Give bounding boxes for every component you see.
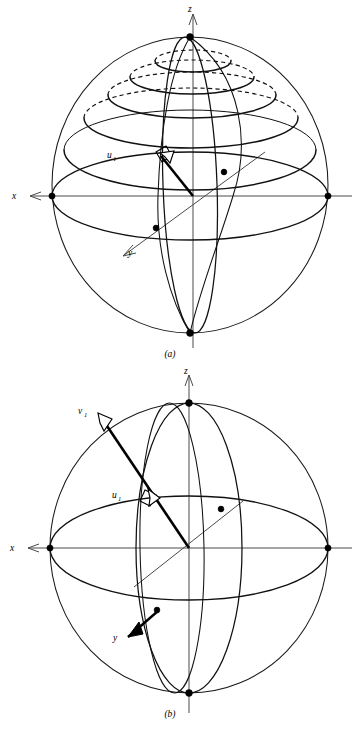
y-axis-label-b: y	[112, 633, 118, 643]
node-z-pos-a	[187, 34, 194, 41]
figure-b: x y z v 1 u 1 (b)	[0, 365, 358, 730]
latitude-circle-3-a	[108, 72, 276, 118]
node-dots-a	[49, 34, 331, 337]
figure-b-canvas: x y z v 1 u 1 (b)	[0, 365, 358, 730]
figure-a-canvas: x y z u 1 (a)	[0, 0, 358, 365]
x-axis-label-a: x	[11, 191, 17, 201]
vector-u1-label-a: u	[107, 150, 112, 160]
vector-v1-label-subscript-b: 1	[84, 411, 87, 418]
axis-group-b	[28, 375, 352, 713]
node-z-neg-a	[187, 330, 194, 337]
vector-v1-label-b: v	[78, 406, 83, 416]
latitude-5-back-arc-a	[64, 110, 316, 150]
vector-u1-label-b: u	[112, 490, 117, 500]
vector-u1-label-subscript-a: 1	[113, 155, 116, 162]
axis-group-a	[30, 14, 352, 348]
latitude-2-front-arc-a	[130, 77, 254, 94]
x-axis-label-b: x	[9, 543, 15, 553]
meridian-1-a	[158, 36, 222, 334]
node-y-neg-b	[154, 607, 160, 613]
node-x-pos-a	[325, 193, 331, 199]
y-axis-vector-arrowhead-b	[128, 622, 143, 637]
node-y-pos-a	[221, 169, 227, 175]
z-axis-label-a: z	[187, 4, 192, 14]
node-y-pos-b	[218, 506, 224, 512]
figure-a-caption: (a)	[164, 349, 175, 360]
z-axis-label-b: z	[183, 366, 188, 376]
vector-u1-b	[140, 489, 160, 506]
node-x-neg-a	[49, 193, 55, 199]
node-z-pos-b	[186, 400, 193, 407]
node-z-neg-b	[186, 690, 193, 697]
vector-v1-shaft-b	[103, 420, 189, 548]
vector-v1-b	[98, 413, 189, 548]
node-y-neg-a	[153, 225, 159, 231]
y-axis-vector-b	[128, 611, 158, 637]
latitude-4-front-arc-a	[84, 118, 298, 148]
latitude-3-back-arc-a	[108, 72, 276, 95]
figure-page: x y z u 1 (a)	[0, 0, 358, 730]
node-x-neg-b	[47, 545, 53, 551]
latitude-4-back-arc-a	[84, 88, 298, 118]
vector-u1-label-subscript-b: 1	[118, 495, 121, 502]
figure-b-caption: (b)	[164, 709, 175, 720]
latitude-5-front-arc-a	[64, 150, 316, 190]
sphere-outline-a	[52, 37, 328, 333]
latitude-circle-5-a	[64, 110, 316, 190]
node-x-pos-b	[325, 545, 331, 551]
meridian-2-a	[190, 37, 241, 333]
figure-a: x y z u 1 (a)	[0, 0, 358, 365]
latitude-2-back-arc-a	[130, 60, 254, 77]
y-axis-label-a: y	[127, 248, 133, 258]
latitude-circle-2-a	[130, 60, 254, 94]
